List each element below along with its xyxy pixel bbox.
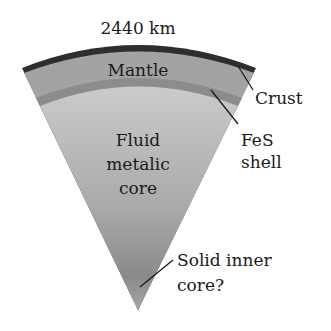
crust-label: Crust [255, 88, 303, 108]
planet-interior-diagram: 2440 km Mantle Crust FeS shell Fluid met… [0, 0, 331, 331]
fes-label-line2: shell [241, 152, 282, 172]
fluid-core-label-line2: metalic [106, 154, 170, 174]
radius-label: 2440 km [100, 18, 175, 38]
inner-core-label-line2: core? [177, 275, 224, 295]
fluid-core-label-line1: Fluid [116, 130, 161, 150]
fes-label-line1: FeS [241, 130, 274, 150]
mantle-label: Mantle [108, 60, 169, 80]
fluid-core-label-line3: core [119, 178, 157, 198]
inner-core-label-line1: Solid inner [177, 250, 272, 270]
